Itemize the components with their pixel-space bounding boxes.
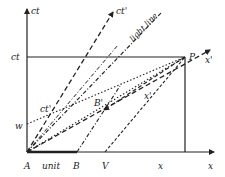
ct-prime-axis <box>27 12 113 152</box>
ct-prime-label: ct' <box>116 6 127 16</box>
ct-prime-point-label: ct' <box>40 104 51 114</box>
b-label: B <box>72 161 80 171</box>
b-worldline <box>77 86 120 152</box>
v-label: V <box>102 161 110 171</box>
v-to-p-line <box>105 57 185 152</box>
unit-label: unit <box>42 161 60 171</box>
spacetime-diagram: ct ct' light line x' ct P w ct' B' x' A … <box>0 0 225 177</box>
ct-prime-to-p-line <box>27 45 118 152</box>
x-prime-point-label: x' <box>144 91 152 101</box>
a-label: A <box>23 161 31 171</box>
x-point-label: x <box>158 161 163 171</box>
x-prime-axis-label: x' <box>205 55 213 65</box>
ct-axis-label: ct <box>31 6 40 16</box>
point-p-label: P <box>188 52 196 62</box>
b-prime-label: B' <box>93 98 103 108</box>
ct-level-label: ct <box>11 52 20 62</box>
w-label: w <box>15 121 23 131</box>
p-to-x-prime-line <box>104 57 185 110</box>
x-axis-label: x <box>208 161 213 171</box>
light-line-label: light line <box>128 11 160 43</box>
